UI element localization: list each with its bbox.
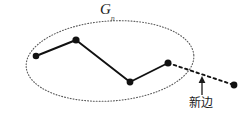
annotation-arrow-head [199, 76, 206, 83]
graph-region-label: Gn [100, 2, 115, 20]
graph-label-base: G [100, 1, 111, 17]
edge-v1-v2 [36, 40, 76, 56]
annotation-arrow-group [199, 76, 206, 95]
new-edge-caption: 新边 [189, 97, 213, 109]
node-v4 [165, 60, 172, 67]
figure-canvas: Gn 新边 [0, 0, 247, 115]
edge-v3-v4 [130, 63, 168, 82]
edge-v2-v3 [76, 40, 130, 82]
node-v2 [72, 36, 79, 43]
node-v3 [127, 79, 134, 86]
node-v5 [231, 82, 238, 89]
graph-label-subscript: n [111, 14, 115, 23]
solid-edges-group [36, 40, 168, 82]
node-v1 [33, 53, 40, 60]
